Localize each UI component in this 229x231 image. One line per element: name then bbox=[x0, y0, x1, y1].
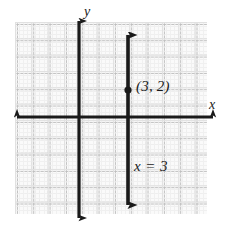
coordinate-grid bbox=[15, 22, 207, 214]
y-axis-label: y bbox=[84, 5, 90, 19]
grid-dash-mask bbox=[15, 22, 207, 214]
x-axis-label: x bbox=[209, 98, 215, 112]
graph-figure: y x (3, 2) x = 3 bbox=[0, 0, 229, 231]
line-equation-label: x = 3 bbox=[134, 159, 168, 174]
point-coordinate-label: (3, 2) bbox=[136, 79, 170, 94]
grid-minor-dots bbox=[15, 22, 207, 214]
